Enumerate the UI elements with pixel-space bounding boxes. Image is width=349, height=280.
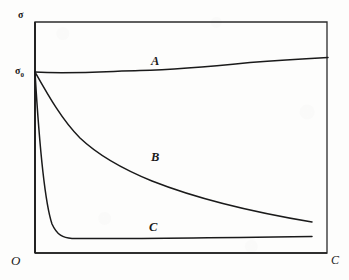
sigma-zero-label: σ0: [15, 66, 24, 79]
stress-concentration-figure: σ σ0 O C A B C: [0, 0, 349, 280]
x-axis-label: C: [331, 254, 339, 266]
origin-label: O: [11, 254, 20, 267]
sigma-zero-subscript: 0: [20, 71, 24, 79]
y-axis-label: σ: [18, 10, 23, 20]
curve-a-label: A: [151, 55, 159, 68]
curve-b: [35, 72, 312, 222]
curve-b-label: B: [151, 151, 159, 164]
curve-a: [35, 58, 328, 73]
plot-canvas: [0, 0, 349, 280]
curve-c-label: C: [149, 221, 157, 234]
